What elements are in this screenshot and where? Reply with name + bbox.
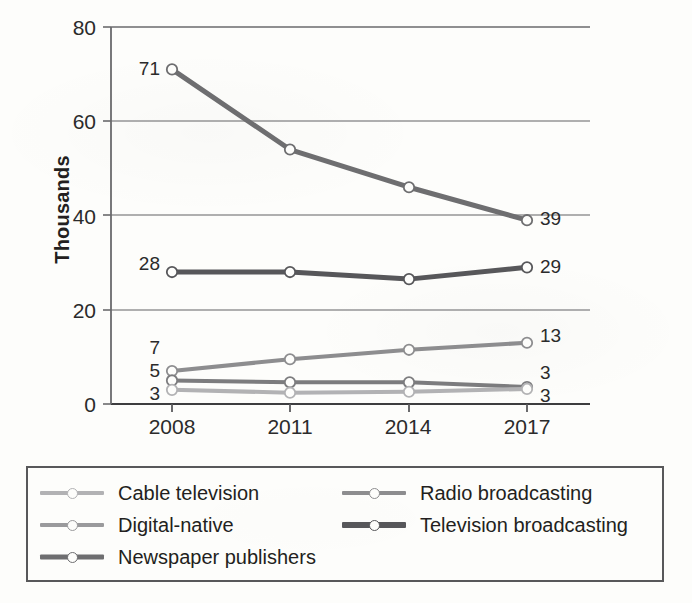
- data-point-marker: [285, 144, 295, 154]
- legend-grid: Cable television Radio broadcasting Digi…: [40, 477, 654, 573]
- value-label-cable-end: 3: [540, 385, 551, 407]
- chart-page: Thousands 80 60 40 20 0 2008 2011 2014 2…: [0, 0, 692, 603]
- data-point-marker: [285, 377, 295, 387]
- legend-line-icon: [40, 516, 104, 534]
- legend-line-icon: [40, 484, 104, 502]
- data-point-marker: [285, 354, 295, 364]
- line-chart: Thousands 80 60 40 20 0 2008 2011 2014 2…: [0, 0, 692, 455]
- legend-swatch-marker-0: [67, 488, 78, 499]
- value-label-newspaper-start: 71: [116, 58, 160, 80]
- value-label-digital-start: 5: [130, 360, 160, 382]
- value-label-radio-end: 13: [540, 325, 561, 347]
- value-label-television-start: 28: [116, 253, 160, 275]
- legend-label: Digital-native: [118, 514, 234, 537]
- data-point-marker: [285, 387, 295, 397]
- legend-swatch-marker-3: [369, 520, 380, 531]
- series-line-1: [172, 267, 527, 279]
- value-label-digital-end: 3: [540, 362, 551, 384]
- legend-swatch-marker-1: [369, 488, 380, 499]
- legend-item-radio-broadcasting[interactable]: Radio broadcasting: [342, 482, 654, 505]
- legend-item-newspaper-publishers[interactable]: Newspaper publishers: [40, 546, 342, 569]
- data-point-marker: [167, 385, 177, 395]
- value-label-television-end: 29: [540, 256, 561, 278]
- data-point-marker: [167, 267, 177, 277]
- legend-item-television-broadcasting[interactable]: Television broadcasting: [342, 514, 654, 537]
- value-label-cable-start: 3: [130, 383, 160, 405]
- value-label-radio-start: 7: [130, 337, 160, 359]
- data-point-marker: [404, 387, 414, 397]
- series-line-3: [172, 380, 527, 387]
- series-line-0: [172, 69, 527, 220]
- chart-plot-svg: [0, 0, 692, 455]
- legend-item-digital-native[interactable]: Digital-native: [40, 514, 342, 537]
- data-point-marker: [522, 384, 532, 394]
- value-label-newspaper-end: 39: [540, 208, 561, 230]
- data-point-marker: [404, 274, 414, 284]
- series-layer: [167, 64, 532, 398]
- legend-line-icon: [342, 484, 406, 502]
- series-line-4: [172, 389, 527, 393]
- legend-label: Newspaper publishers: [118, 546, 316, 569]
- y-axis-line: [103, 27, 111, 404]
- legend-line-icon: [342, 516, 406, 534]
- legend-label: Radio broadcasting: [420, 482, 592, 505]
- legend-line-icon: [40, 548, 104, 566]
- data-point-marker: [404, 182, 414, 192]
- series-line-2: [172, 343, 527, 371]
- data-point-marker: [285, 267, 295, 277]
- legend-swatch-marker-4: [67, 552, 78, 563]
- data-point-marker: [522, 338, 532, 348]
- legend-label: Cable television: [118, 482, 259, 505]
- data-point-marker: [522, 215, 532, 225]
- x-axis-ticks: [172, 404, 527, 412]
- legend-swatch-marker-2: [67, 520, 78, 531]
- data-point-marker: [167, 64, 177, 74]
- chart-legend: Cable television Radio broadcasting Digi…: [26, 466, 664, 582]
- legend-label: Television broadcasting: [420, 514, 628, 537]
- legend-item-cable-television[interactable]: Cable television: [40, 482, 342, 505]
- data-point-marker: [522, 262, 532, 272]
- data-point-marker: [404, 345, 414, 355]
